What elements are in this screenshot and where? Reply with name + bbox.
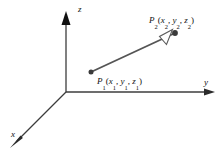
- z-axis-group: z: [62, 4, 83, 92]
- x-axis-line: [17, 92, 66, 141]
- z-axis-label: z: [77, 4, 82, 14]
- vector-arrowhead-icon: [160, 30, 173, 45]
- point-p1-dot: [89, 70, 94, 75]
- x-axis-group: x: [10, 92, 66, 148]
- figure-canvas: z y x P1(x1, y1, z1) P2(x2, y2, z2): [0, 0, 221, 154]
- y-axis-arrowhead: [204, 88, 215, 95]
- point-p2-label: P2(x2, y2, z2): [148, 15, 194, 30]
- vector-segment-line: [91, 34, 173, 72]
- point-p2-dot: [172, 30, 178, 36]
- y-axis-label: y: [203, 77, 208, 87]
- vector-group: [91, 30, 173, 73]
- coordinate-diagram: z y x P1(x1, y1, z1) P2(x2, y2, z2): [0, 0, 221, 154]
- point-p1-label: P1(x1, y1, z1): [96, 76, 142, 91]
- x-axis-label: x: [10, 129, 15, 139]
- z-axis-arrowhead: [62, 11, 71, 25]
